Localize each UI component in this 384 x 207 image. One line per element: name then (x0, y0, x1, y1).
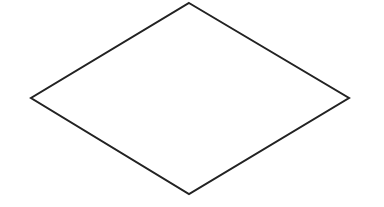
decision-diamond (31, 3, 349, 194)
diagram-canvas (0, 0, 384, 207)
